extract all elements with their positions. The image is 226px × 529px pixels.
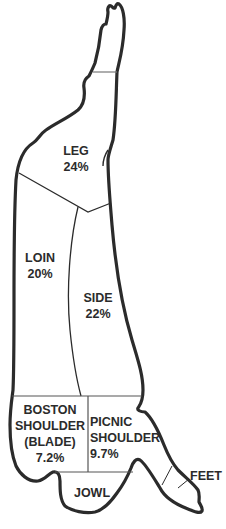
- label-leg: LEG 24%: [60, 143, 92, 175]
- boston-line-1: BOSTON: [14, 402, 86, 418]
- label-picnic-shoulder: PICNIC SHOULDER 9.7%: [90, 414, 160, 462]
- loin-value: 20%: [24, 266, 56, 282]
- picnic-value: 9.7%: [90, 446, 160, 462]
- label-boston-shoulder: BOSTON SHOULDER (BLADE) 7.2%: [14, 402, 86, 466]
- label-jowl: JOWL: [70, 485, 114, 501]
- boston-value: 7.2%: [14, 450, 86, 466]
- label-side: SIDE 22%: [82, 290, 114, 322]
- jowl-name: JOWL: [70, 485, 114, 501]
- picnic-line-1: PICNIC: [90, 414, 160, 430]
- label-feet: FEET: [190, 468, 226, 484]
- leg-name: LEG: [60, 143, 92, 159]
- side-name: SIDE: [82, 290, 114, 306]
- feet-name: FEET: [190, 468, 226, 484]
- loin-name: LOIN: [24, 250, 56, 266]
- boston-line-2: SHOULDER: [14, 418, 86, 434]
- leg-value: 24%: [60, 159, 92, 175]
- boston-line-3: (BLADE): [14, 434, 86, 450]
- label-loin: LOIN 20%: [24, 250, 56, 282]
- side-value: 22%: [82, 306, 114, 322]
- picnic-line-2: SHOULDER: [90, 430, 160, 446]
